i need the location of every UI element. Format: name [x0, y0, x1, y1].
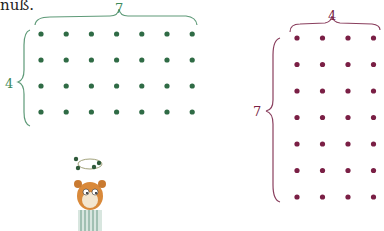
- dot: [38, 57, 43, 62]
- dot: [164, 31, 169, 36]
- dot: [164, 57, 169, 62]
- dot: [345, 168, 350, 173]
- left-side-label: 4: [5, 76, 13, 91]
- right-top-label: 4: [328, 8, 336, 23]
- dot: [294, 194, 299, 199]
- dot: [164, 83, 169, 88]
- dot: [190, 57, 195, 62]
- dot: [64, 109, 69, 114]
- dot: [38, 31, 43, 36]
- dot: [89, 57, 94, 62]
- dot: [139, 57, 144, 62]
- dot: [320, 62, 325, 67]
- dot: [190, 109, 195, 114]
- dot: [345, 194, 350, 199]
- dot: [371, 168, 376, 173]
- dot: [114, 109, 119, 114]
- dot: [38, 83, 43, 88]
- dot: [371, 115, 376, 120]
- dot: [294, 88, 299, 93]
- dot: [371, 194, 376, 199]
- dot: [89, 31, 94, 36]
- right-grid: 4 7: [253, 8, 380, 202]
- dot: [89, 109, 94, 114]
- dot: [164, 109, 169, 114]
- dot: [64, 57, 69, 62]
- dot: [190, 31, 195, 36]
- dot: [371, 141, 376, 146]
- dot: [320, 168, 325, 173]
- dot-arrays-figure: 7 4 4 7: [0, 0, 384, 231]
- dot: [345, 35, 350, 40]
- dot: [64, 83, 69, 88]
- dot: [114, 83, 119, 88]
- dot: [139, 109, 144, 114]
- dot: [320, 115, 325, 120]
- dot: [294, 141, 299, 146]
- dot: [294, 35, 299, 40]
- dot: [371, 35, 376, 40]
- dot: [294, 115, 299, 120]
- dot: [294, 62, 299, 67]
- dot: [139, 83, 144, 88]
- right-side-label: 7: [253, 104, 261, 119]
- dot: [320, 35, 325, 40]
- dot: [371, 62, 376, 67]
- dot: [114, 31, 119, 36]
- dot: [294, 168, 299, 173]
- dot: [345, 141, 350, 146]
- dot: [345, 115, 350, 120]
- dot: [38, 109, 43, 114]
- dot: [89, 83, 94, 88]
- left-grid: 7 4: [5, 1, 197, 126]
- left-top-label: 7: [115, 1, 123, 16]
- dot: [320, 141, 325, 146]
- dot: [345, 62, 350, 67]
- dot: [320, 88, 325, 93]
- dot: [190, 83, 195, 88]
- dot: [320, 194, 325, 199]
- dot: [64, 31, 69, 36]
- hamster-illustration: [74, 157, 106, 231]
- dot: [371, 88, 376, 93]
- dot: [114, 57, 119, 62]
- dot: [345, 88, 350, 93]
- dot: [139, 31, 144, 36]
